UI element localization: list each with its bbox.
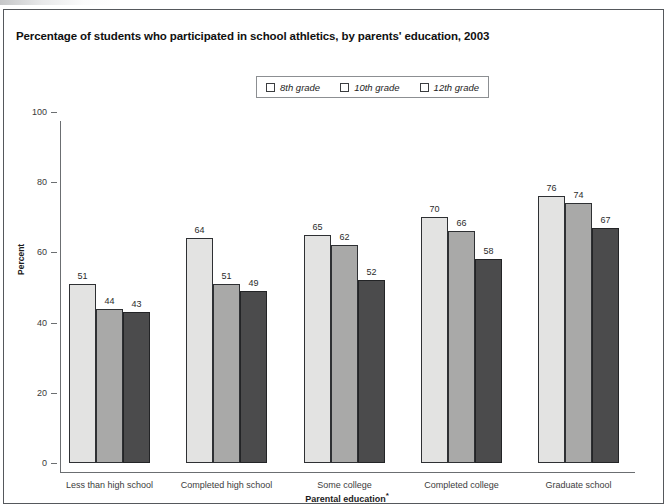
bar-value-3-1: 66 xyxy=(448,218,475,228)
bar-1-2 xyxy=(240,291,267,463)
y-tick-label-40: 40 xyxy=(23,318,47,328)
y-tick-0 xyxy=(51,463,57,464)
legend-label-8th-grade: 8th grade xyxy=(280,82,320,93)
bar-4-0 xyxy=(538,196,565,463)
y-tick-label-80: 80 xyxy=(23,177,47,187)
bar-1-1 xyxy=(213,284,240,463)
figure-frame: Percentage of students who participated … xyxy=(3,9,664,504)
bar-4-2 xyxy=(592,228,619,463)
legend-swatch-8th-grade xyxy=(266,83,275,92)
y-tick-label-20: 20 xyxy=(23,388,47,398)
legend-item-10th-grade: 10th grade xyxy=(340,82,399,93)
bar-value-1-1: 51 xyxy=(213,271,240,281)
category-label-4: Graduate school xyxy=(545,480,611,490)
bar-1-0 xyxy=(186,238,213,463)
y-tick-80 xyxy=(51,182,57,183)
bar-value-3-2: 58 xyxy=(475,246,502,256)
bar-4-1 xyxy=(565,203,592,463)
y-tick-60 xyxy=(51,252,57,253)
bar-value-1-0: 64 xyxy=(186,225,213,235)
bar-value-2-0: 65 xyxy=(304,222,331,232)
bar-value-4-2: 67 xyxy=(592,215,619,225)
legend-item-12th-grade: 12th grade xyxy=(420,82,479,93)
bar-2-0 xyxy=(304,235,331,463)
y-tick-label-100: 100 xyxy=(23,107,47,117)
bar-2-2 xyxy=(358,280,385,463)
bar-value-2-2: 52 xyxy=(358,267,385,277)
y-tick-label-60: 60 xyxy=(23,247,47,257)
bar-value-3-0: 70 xyxy=(421,204,448,214)
legend-item-8th-grade: 8th grade xyxy=(266,82,320,93)
bar-value-0-2: 43 xyxy=(123,299,150,309)
legend-label-12th-grade: 12th grade xyxy=(434,82,479,93)
category-label-1: Completed high school xyxy=(181,480,273,490)
bar-2-1 xyxy=(331,245,358,463)
category-label-0: Less than high school xyxy=(66,480,153,490)
y-axis-title: Percent xyxy=(16,261,26,275)
bar-0-2 xyxy=(123,312,150,463)
bar-value-4-0: 76 xyxy=(538,183,565,193)
bar-value-0-0: 51 xyxy=(69,271,96,281)
bar-value-2-1: 62 xyxy=(331,232,358,242)
legend-swatch-12th-grade xyxy=(420,83,429,92)
x-axis-title-note: * xyxy=(386,491,389,500)
legend-label-10th-grade: 10th grade xyxy=(354,82,399,93)
bar-value-0-1: 44 xyxy=(96,296,123,306)
bar-3-2 xyxy=(475,259,502,463)
category-label-2: Some college xyxy=(317,480,372,490)
scan-artifact xyxy=(0,0,120,5)
y-tick-20 xyxy=(51,393,57,394)
y-tick-40 xyxy=(51,323,57,324)
bar-3-1 xyxy=(448,231,475,463)
bar-value-1-2: 49 xyxy=(240,278,267,288)
y-tick-label-0: 0 xyxy=(23,458,47,468)
y-axis-line xyxy=(60,121,61,472)
category-label-3: Completed college xyxy=(424,480,499,490)
y-tick-100 xyxy=(51,112,57,113)
chart-title: Percentage of students who participated … xyxy=(16,30,489,42)
bar-0-0 xyxy=(69,284,96,463)
legend-swatch-10th-grade xyxy=(340,83,349,92)
x-axis-title: Parental education* xyxy=(305,494,389,504)
bar-value-4-1: 74 xyxy=(565,190,592,200)
bar-3-0 xyxy=(421,217,448,463)
chart-legend: 8th grade 10th grade 12th grade xyxy=(256,76,489,98)
x-axis-line xyxy=(60,472,635,473)
bar-0-1 xyxy=(96,309,123,463)
